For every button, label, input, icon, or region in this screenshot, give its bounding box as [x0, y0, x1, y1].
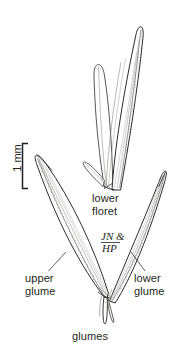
- pedicel: [103, 297, 107, 324]
- spikelet-illustration: JN & HP: [0, 0, 184, 351]
- label-lower-floret: lower floret: [92, 192, 119, 217]
- monogram-line-1: JN &: [101, 230, 125, 242]
- scale-bar-label: 1 mm: [11, 138, 23, 178]
- botanical-figure: JN & HP lower floret upper glume lower g…: [0, 0, 184, 351]
- label-glumes: glumes: [72, 330, 108, 343]
- label-upper-glume: upper glume: [25, 272, 55, 297]
- label-lower-glume: lower glume: [134, 272, 164, 297]
- monogram-line-2: HP: [101, 242, 117, 254]
